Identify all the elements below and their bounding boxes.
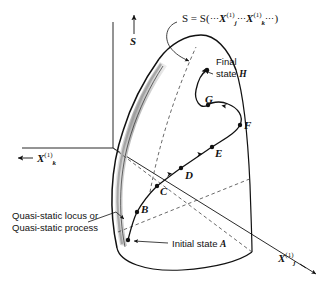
surface-equation: S = S(⋯X(1)j⋯X(1)k⋯) <box>182 12 278 27</box>
final-state-line1: Final <box>216 56 247 68</box>
point-marker-B <box>135 210 139 214</box>
initial-state-prefix: Initial state <box>172 238 220 249</box>
path-arrow-3 <box>221 104 227 109</box>
point-label-B: B <box>141 204 148 215</box>
equation-suffix: ) <box>275 12 279 24</box>
figure-root: S = S(⋯X(1)j⋯X(1)k⋯) S X(1)k X(1)j Final… <box>0 0 328 303</box>
point-marker-C <box>155 184 159 188</box>
axis-label-s: S <box>130 36 136 47</box>
surface-base-arc <box>117 248 252 270</box>
axis-xk-sup: (1) <box>44 151 52 159</box>
callout-quasi-static: Quasi-static locus or Quasi-static proce… <box>12 210 98 234</box>
point-marker-E <box>210 145 214 149</box>
final-state-line2-prefix: state <box>216 68 239 79</box>
equation-var1-sup: (1) <box>226 11 234 19</box>
equation-dots-2: ⋯ <box>237 14 247 24</box>
axis-label-xk: X(1)k <box>37 152 56 167</box>
callout-final-state: Final state H <box>216 56 247 81</box>
final-state-point: H <box>239 69 246 79</box>
axis-xj-sub: j <box>294 259 296 267</box>
quasi-static-line1: Quasi-static locus or <box>12 210 98 222</box>
dashed-cross-line <box>118 178 252 232</box>
point-label-C: C <box>160 186 167 197</box>
initial-state-point: A <box>220 239 226 249</box>
axis-label-xj: X(1)j <box>278 252 295 267</box>
point-label-E: E <box>215 148 222 159</box>
point-marker-A <box>126 238 130 242</box>
point-label-G: G <box>205 94 213 105</box>
surface-right-edge <box>236 70 252 252</box>
initial-state-leader <box>134 241 168 243</box>
axis-xj-sup: (1) <box>285 251 293 259</box>
equation-dots-1: ⋯ <box>210 14 220 24</box>
callout-initial-state: Initial state A <box>172 238 226 251</box>
quasi-static-line2: Quasi-static process <box>12 222 98 234</box>
point-marker-F <box>238 123 242 127</box>
point-marker-D <box>179 166 183 170</box>
final-state-leader <box>205 71 213 74</box>
equation-dots-3: ⋯ <box>265 14 275 24</box>
axis-xk-sub: k <box>53 159 57 167</box>
point-label-D: D <box>185 170 193 181</box>
equation-prefix: S = S( <box>182 12 210 24</box>
dashed-base-diagonal <box>113 148 252 252</box>
axis-j-arrow <box>300 264 316 274</box>
point-label-F: F <box>244 120 251 131</box>
equation-var2-sup: (1) <box>253 11 261 19</box>
